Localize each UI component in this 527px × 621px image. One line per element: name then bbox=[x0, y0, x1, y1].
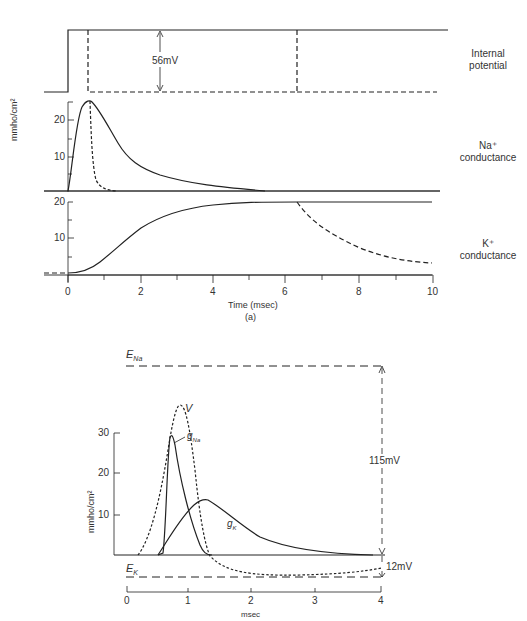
bottom-y-tick-20: 20 bbox=[98, 467, 109, 478]
gk-label: gK bbox=[227, 518, 237, 534]
gk-subscript: K bbox=[233, 525, 237, 531]
x-tick-8: 8 bbox=[356, 286, 362, 297]
bottom-y-axis bbox=[114, 433, 120, 555]
bottom-y-tick-30: 30 bbox=[98, 427, 109, 438]
e-k-subscript: K bbox=[133, 569, 138, 576]
gna-label: gNa bbox=[187, 430, 200, 446]
bottom-x-axis-label: msec bbox=[241, 609, 260, 621]
v-curve bbox=[138, 405, 382, 575]
k-tick-10: 10 bbox=[54, 232, 65, 243]
top-y-axis-label: mmho/cm² bbox=[8, 81, 20, 141]
potential-dashed-trace bbox=[88, 30, 437, 92]
bottom-y-tick-10: 10 bbox=[98, 509, 109, 520]
na-y-axis bbox=[68, 102, 74, 192]
potential-solid-trace bbox=[44, 30, 448, 92]
bottom-x-tick-3: 3 bbox=[312, 595, 318, 606]
na-tick-20: 20 bbox=[54, 114, 65, 125]
bottom-x-axis bbox=[127, 586, 381, 592]
annotation-56mv: 56mV bbox=[150, 55, 180, 67]
k-tick-20: 20 bbox=[54, 196, 65, 207]
label-line: potential bbox=[448, 60, 527, 72]
e-na-label: ENa bbox=[126, 348, 142, 365]
k-conductance-dashed bbox=[297, 202, 432, 263]
na-conductance-curve bbox=[68, 101, 265, 191]
na-conductance-dashed bbox=[90, 101, 116, 191]
x-tick-4: 4 bbox=[210, 286, 216, 297]
gk-curve bbox=[158, 500, 373, 555]
annotation-115mv: 115mV bbox=[369, 454, 400, 468]
x-tick-2: 2 bbox=[138, 286, 144, 297]
label-na-conductance: Na⁺ conductance bbox=[448, 140, 527, 164]
e-k-label: EK bbox=[126, 562, 138, 579]
annotation-12mv: 12mV bbox=[386, 561, 412, 573]
bottom-x-tick-1: 1 bbox=[185, 595, 191, 606]
label-k-conductance: K⁺ conductance bbox=[448, 238, 527, 262]
gna-subscript: Na bbox=[193, 437, 201, 443]
label-line: conductance bbox=[448, 152, 527, 164]
x-tick-6: 6 bbox=[282, 286, 288, 297]
top-x-axis-label: Time (msec) bbox=[228, 299, 278, 311]
label-internal-potential: Internal potential bbox=[448, 48, 527, 72]
k-conductance-curve bbox=[68, 202, 432, 273]
label-line: Na⁺ bbox=[448, 140, 527, 152]
k-y-axis bbox=[68, 202, 74, 282]
caption-a: (a) bbox=[245, 311, 256, 323]
bottom-y-axis-label: mmho/cm² bbox=[85, 463, 97, 533]
top-x-axis bbox=[68, 275, 433, 283]
bottom-x-tick-4: 4 bbox=[378, 595, 384, 606]
v-label: V bbox=[185, 402, 192, 414]
bottom-x-tick-2: 2 bbox=[248, 595, 254, 606]
label-line: conductance bbox=[448, 250, 527, 262]
x-tick-0: 0 bbox=[65, 286, 71, 297]
e-na-subscript: Na bbox=[133, 355, 142, 362]
na-tick-10: 10 bbox=[54, 151, 65, 162]
label-line: K⁺ bbox=[448, 238, 527, 250]
bottom-x-tick-0: 0 bbox=[124, 595, 130, 606]
x-tick-10: 10 bbox=[427, 286, 438, 297]
label-line: Internal bbox=[448, 48, 527, 60]
